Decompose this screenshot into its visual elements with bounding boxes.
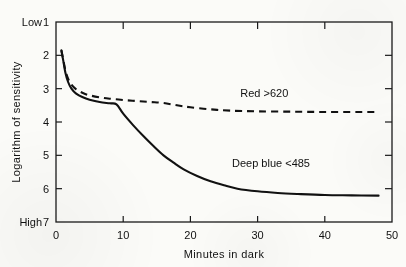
series-label-deep-blue: Deep blue <485	[232, 157, 310, 169]
plot-frame	[56, 22, 392, 222]
y-tick-label: 1	[43, 16, 49, 28]
x-tick-label: 30	[251, 229, 263, 241]
y-tick-label: 6	[43, 183, 49, 195]
y-axis-bottom-label: High	[19, 216, 42, 228]
x-tick-label: 0	[53, 229, 59, 241]
y-axis-tick-labels: 1234567	[43, 16, 49, 228]
x-axis-title: Minutes in dark	[184, 248, 265, 260]
x-tick-label: 50	[386, 229, 398, 241]
x-tick-label: 10	[117, 229, 129, 241]
x-tick-label: 40	[319, 229, 331, 241]
y-axis-top-label: Low	[22, 16, 42, 28]
right-axis-ticks	[385, 55, 392, 188]
y-tick-label: 2	[43, 49, 49, 61]
x-axis-tick-labels: 01020304050	[53, 229, 398, 241]
y-tick-label: 5	[43, 149, 49, 161]
top-axis-ticks	[123, 22, 325, 29]
chart-figure: 1234567 01020304050 Low High Logarithm o…	[0, 0, 406, 267]
y-axis-ticks	[56, 55, 62, 188]
x-tick-label: 20	[184, 229, 196, 241]
series-line-deep-blue	[61, 50, 378, 195]
x-axis-ticks	[123, 216, 325, 222]
y-tick-label: 7	[43, 216, 49, 228]
y-axis-title: Logarithm of sensitivity	[10, 61, 22, 183]
y-tick-label: 4	[43, 116, 49, 128]
dark-adaptation-curve-chart: 1234567 01020304050 Low High Logarithm o…	[0, 0, 406, 267]
y-tick-label: 3	[43, 83, 49, 95]
series-label-red: Red >620	[240, 87, 288, 99]
